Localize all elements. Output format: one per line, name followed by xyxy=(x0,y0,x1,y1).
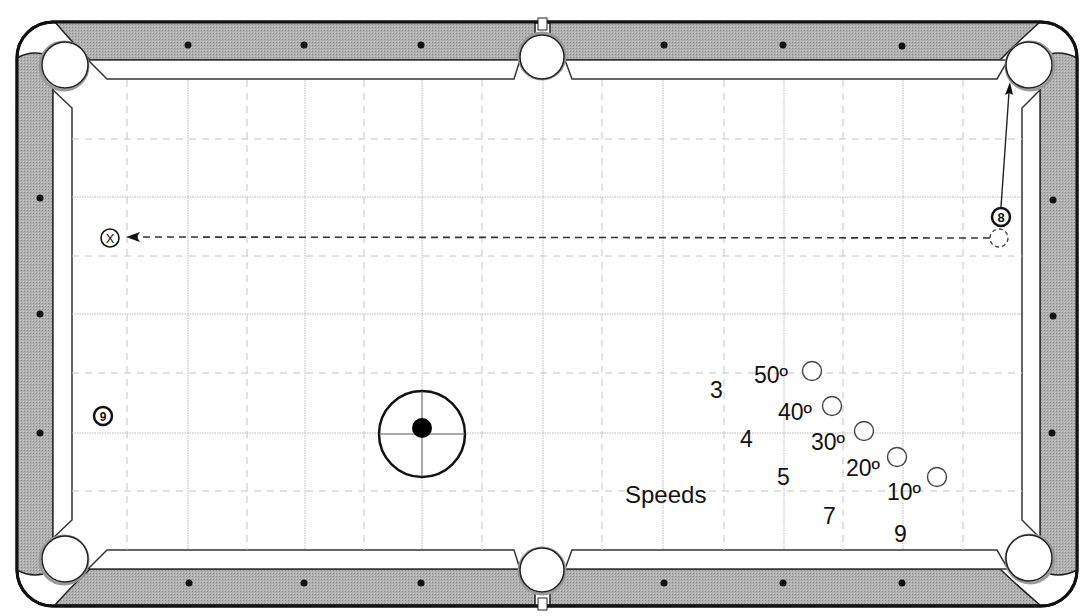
pocket-top-middle xyxy=(519,33,565,79)
top-notch xyxy=(538,18,547,30)
ball-8: 8 xyxy=(992,208,1010,226)
cushion-bottom-right xyxy=(565,550,1008,569)
speed-label-7: 7 xyxy=(823,505,836,528)
cushion-top-left xyxy=(88,60,520,79)
pocket-top-left xyxy=(40,42,88,90)
angle-label-30: 30º xyxy=(811,431,845,454)
top-rail-right xyxy=(550,22,1040,60)
cushion-left xyxy=(53,90,72,538)
bottom-rail-right xyxy=(550,569,1040,605)
right-rail xyxy=(1040,53,1077,575)
angle-circle-50 xyxy=(803,362,822,381)
bottom-notch xyxy=(538,598,547,610)
angle-label-40: 40º xyxy=(778,401,812,424)
angle-label-20: 20º xyxy=(846,457,880,480)
top-rail-left xyxy=(55,22,535,60)
cue-tip-dot xyxy=(412,418,432,438)
cushion-top-right xyxy=(565,60,1008,79)
pocket-bottom-left xyxy=(40,536,88,584)
speed-label-5: 5 xyxy=(777,466,790,489)
bottom-rail-left xyxy=(55,569,535,605)
cushion-bottom-left xyxy=(88,550,520,569)
pocket-top-right xyxy=(1006,42,1054,90)
pool-table-diagram: 8 9 X 50º 40º 30º 20º 10º 3 4 xyxy=(0,0,1087,616)
cue-ball-diagram xyxy=(379,391,465,477)
speeds-title: Speeds xyxy=(625,483,706,507)
angle-label-10: 10º xyxy=(887,481,921,504)
ball-9-label: 9 xyxy=(100,410,107,424)
angle-circle-30 xyxy=(855,422,874,441)
target-x-marker: X xyxy=(101,229,119,247)
angle-circle-20 xyxy=(888,448,907,467)
speed-label-9: 9 xyxy=(894,523,907,546)
target-x-label: X xyxy=(106,231,115,246)
ghost-ball xyxy=(990,229,1008,247)
pocket-bottom-middle xyxy=(519,548,565,594)
speed-label-3: 3 xyxy=(710,379,723,402)
pocket-bottom-right xyxy=(1006,535,1054,583)
left-rail xyxy=(17,53,53,575)
ball-9: 9 xyxy=(94,407,112,425)
speed-label-4: 4 xyxy=(740,428,753,451)
angle-label-50: 50º xyxy=(754,364,788,387)
angle-circle-10 xyxy=(928,468,947,487)
angle-circle-40 xyxy=(823,397,842,416)
cushion-right xyxy=(1022,90,1040,538)
ball-8-label: 8 xyxy=(997,210,1004,225)
